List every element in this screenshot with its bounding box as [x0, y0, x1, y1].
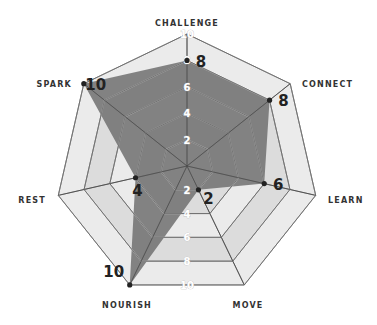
axis-label-learn: LEARN: [328, 196, 364, 205]
data-point-nourish: [127, 282, 132, 287]
axis-label-move: MOVE: [232, 301, 263, 310]
value-label-challenge: 8: [196, 53, 206, 71]
data-point-challenge: [184, 58, 189, 63]
data-point-move: [196, 187, 201, 192]
axis-label-nourish: NOURISH: [102, 301, 152, 310]
radar-chart: 224466881010 886210410 CHALLENGECONNECTL…: [0, 0, 377, 325]
tick-label-top-6: 6: [184, 82, 191, 93]
value-label-spark: 10: [85, 76, 106, 94]
value-label-nourish: 10: [103, 263, 124, 281]
value-label-move: 2: [203, 190, 213, 208]
tick-label-bottom-4: 4: [184, 209, 191, 220]
axis-label-connect: CONNECT: [302, 80, 353, 89]
tick-label-bottom-10: 10: [180, 280, 194, 291]
data-point-learn: [262, 181, 267, 186]
data-point-connect: [267, 98, 272, 103]
value-label-connect: 8: [278, 92, 288, 110]
value-label-rest: 4: [132, 182, 142, 200]
tick-label-top-10: 10: [180, 29, 194, 40]
tick-label-bottom-2: 2: [184, 185, 191, 196]
tick-label-bottom-6: 6: [184, 232, 191, 243]
axis-label-spark: SPARK: [37, 80, 72, 89]
tick-label-bottom-8: 8: [184, 256, 191, 267]
axis-label-rest: REST: [18, 196, 46, 205]
tick-label-top-2: 2: [184, 135, 191, 146]
data-point-rest: [133, 175, 138, 180]
axis-label-challenge: CHALLENGE: [155, 19, 219, 28]
value-label-learn: 6: [273, 176, 283, 194]
tick-label-top-4: 4: [184, 108, 191, 119]
